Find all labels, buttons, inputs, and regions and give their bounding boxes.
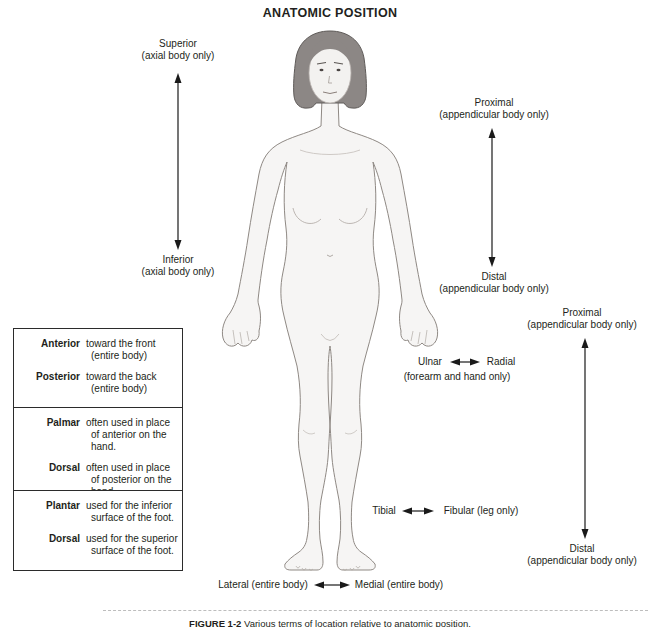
superior-scope: (axial body only) [142,50,215,62]
definition-line: surface of the foot. [86,545,178,557]
definition-line: (entire body) [86,383,178,395]
proximal-arm-scope: (appendicular body only) [439,109,549,121]
definition-entry: Posterior toward the back (entire body) [14,371,178,395]
eye-left [320,69,324,71]
definition-text: toward the back (entire body) [86,371,178,395]
inferior-label: Inferior (axial body only) [142,254,215,278]
term-posterior: Posterior [14,371,80,395]
term-palmar: Palmar [14,417,80,453]
proximal-leg-scope: (appendicular body only) [527,319,637,331]
forearm-scope-label: (forearm and hand only) [404,371,511,383]
distal-leg-scope: (appendicular body only) [527,555,637,567]
proximal-leg-label: Proximal (appendicular body only) [527,307,637,331]
definition-line: surface of the foot. [86,512,178,524]
definition-line: used for the superior [86,533,178,545]
radial-label: Radial [487,356,515,368]
tibial-fibular-arrow [402,508,434,515]
definition-line: used for the inferior [86,500,178,512]
term-plantar: Plantar [14,500,80,524]
distal-arm-term: Distal [439,271,549,283]
definition-line: (entire body) [86,350,178,362]
definition-line: toward the back [86,371,178,383]
plantar-dorsal-box: Plantar used for the inferior surface of… [13,490,183,571]
anatomic-position-diagram: ANATOMIC POSITION Superior (axial body o… [0,0,660,627]
proximal-leg-term: Proximal [527,307,637,319]
medial-label: Medial (entire body) [355,579,443,591]
definition-text: used for the superior surface of the foo… [86,533,178,557]
human-figure [222,31,437,571]
term-dorsal-foot: Dorsal [14,533,80,557]
diagram-title: ANATOMIC POSITION [263,6,398,20]
figure-caption-label: FIGURE 1-2 [189,618,241,627]
definition-entry: Dorsal used for the superior surface of … [14,533,178,557]
definition-line: toward the front [86,338,178,350]
proximal-arm-term: Proximal [439,97,549,109]
term-anterior: Anterior [14,338,80,362]
lateral-medial-arrow [314,582,350,589]
proximal-distal-arm-arrow [489,128,496,267]
superior-term: Superior [142,38,215,50]
proximal-arm-label: Proximal (appendicular body only) [439,97,549,121]
figure-caption-text: Various terms of location relative to an… [244,618,471,627]
definition-text: often used in place of anterior on the h… [86,417,178,453]
distal-arm-label: Distal (appendicular body only) [439,271,549,295]
distal-leg-term: Distal [527,543,637,555]
anterior-posterior-box: Anterior toward the front (entire body) … [13,328,183,409]
definition-text: used for the inferior surface of the foo… [86,500,178,524]
proximal-distal-leg-arrow [582,338,589,539]
definition-line: often used in place [86,462,178,474]
definition-entry: Palmar often used in place of anterior o… [14,417,178,453]
definition-line: often used in place [86,417,178,429]
definition-entry: Anterior toward the front (entire body) [14,338,178,362]
ulnar-radial-arrow [450,359,480,366]
distal-arm-scope: (appendicular body only) [439,283,549,295]
ulnar-label: Ulnar [418,356,442,368]
distal-leg-label: Distal (appendicular body only) [527,543,637,567]
lateral-label: Lateral (entire body) [218,579,308,591]
fibular-label: Fibular (leg only) [444,505,518,517]
inferior-term: Inferior [142,254,215,266]
tibial-label: Tibial [372,505,396,517]
eye-right [337,69,341,71]
definition-text: toward the front (entire body) [86,338,178,362]
caption-divider [103,610,648,611]
definition-line: of anterior on the hand. [86,429,178,453]
definition-entry: Plantar used for the inferior surface of… [14,500,178,524]
superior-label: Superior (axial body only) [142,38,215,62]
inferior-scope: (axial body only) [142,266,215,278]
superior-inferior-arrow [175,73,182,250]
body-silhouette [222,98,437,570]
figure-caption: FIGURE 1-2 Various terms of location rel… [0,618,660,627]
